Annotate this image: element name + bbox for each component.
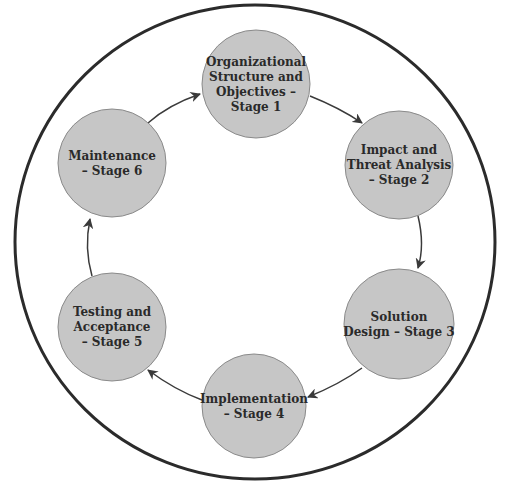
node-stage5: Testing andAcceptance– Stage 5 <box>58 273 166 381</box>
node-label-line: – Stage 4 <box>224 407 285 421</box>
node-label-line: Stage 1 <box>231 100 282 114</box>
arrow-stage5-to-stage6 <box>87 219 92 276</box>
node-label-line: Impact and <box>361 143 438 157</box>
node-label-line: Maintenance <box>68 149 156 163</box>
node-label-line: Objectives – <box>216 85 296 99</box>
node-stage3: SolutionDesign – Stage 3 <box>343 269 454 379</box>
node-label-line: – Stage 2 <box>369 173 430 187</box>
node-stage2: Impact andThreat Analysis– Stage 2 <box>345 111 453 219</box>
arrow-stage1-to-stage2 <box>310 96 362 123</box>
node-label-line: Implementation <box>200 392 308 406</box>
node-label-line: Testing and <box>73 305 152 319</box>
arrow-stage6-to-stage1 <box>148 94 200 123</box>
node-label-line: Solution <box>371 310 428 324</box>
node-label-line: – Stage 6 <box>82 164 143 178</box>
node-label-line: – Stage 5 <box>82 335 143 349</box>
cycle-diagram: OrganizationalStructure andObjectives –S… <box>0 0 509 490</box>
node-stage1: OrganizationalStructure andObjectives –S… <box>202 30 310 138</box>
arrow-stage3-to-stage4 <box>308 368 362 397</box>
node-label-line: Organizational <box>206 55 306 69</box>
nodes-group: OrganizationalStructure andObjectives –S… <box>58 30 455 458</box>
node-label-line: Structure and <box>209 70 303 84</box>
arrow-stage2-to-stage3 <box>418 216 422 268</box>
node-label-line: Threat Analysis <box>347 158 452 172</box>
node-stage4: Implementation– Stage 4 <box>200 354 308 458</box>
node-stage6: Maintenance– Stage 6 <box>58 109 166 217</box>
arrow-stage4-to-stage5 <box>148 370 202 400</box>
node-label-line: Design – Stage 3 <box>343 325 454 339</box>
node-label-line: Acceptance <box>73 320 151 334</box>
